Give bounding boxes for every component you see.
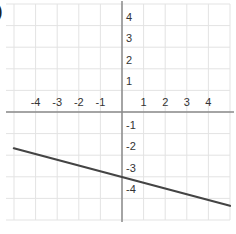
x-tick-label: 1 — [141, 96, 147, 108]
axes — [6, 1, 234, 222]
y-tick-label: 3 — [126, 32, 132, 44]
x-tick-label: -1 — [96, 96, 106, 108]
x-tick-label: -2 — [74, 96, 84, 108]
x-tick-label: -3 — [52, 96, 62, 108]
tick-labels: -4-3-2-112344321-1-2-3-4 — [31, 11, 212, 196]
y-tick-label: -2 — [126, 140, 136, 152]
y-tick-label: 1 — [126, 75, 132, 87]
y-tick-label: 2 — [126, 54, 132, 66]
x-tick-label: 3 — [184, 96, 190, 108]
y-tick-label: -3 — [126, 162, 136, 174]
coordinate-plane: -4-3-2-112344321-1-2-3-4 — [0, 0, 236, 234]
y-tick-label: 4 — [126, 11, 132, 23]
y-tick-label: -1 — [126, 119, 136, 131]
x-tick-label: 4 — [205, 96, 211, 108]
x-tick-label: 2 — [162, 96, 168, 108]
y-tick-label: -4 — [126, 183, 136, 195]
x-tick-label: -4 — [31, 96, 41, 108]
